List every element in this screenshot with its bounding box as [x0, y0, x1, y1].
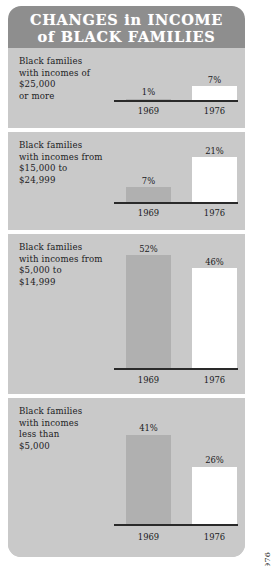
bar-value-1976: 7%	[192, 75, 237, 85]
panel-label: Black families with incomes from $5,000 …	[19, 242, 103, 288]
axis-tick-1976: 1976	[192, 106, 237, 116]
axis-tick-1969: 1969	[126, 106, 171, 116]
infographic-root: CHANGES in INCOME of BLACK FAMILIES Blac…	[0, 0, 275, 566]
panel-label: Black families with incomes from $15,000…	[19, 140, 103, 186]
source-credit-wrapper: Source: Statistical Abstract of the U.S.…	[259, 320, 273, 560]
bar-1969	[126, 255, 171, 368]
bar-value-1976: 21%	[192, 146, 237, 156]
axis-tick-1976: 1976	[192, 375, 237, 385]
panel-income-25000-or-more: Black families with incomes of $25,000 o…	[8, 48, 245, 128]
axis-line	[114, 100, 238, 102]
axis-line	[114, 524, 238, 526]
bar-1976	[192, 268, 237, 368]
source-credit: Source: Statistical Abstract of the U.S.…	[262, 552, 272, 566]
bar-1976	[192, 86, 237, 100]
title-banner: CHANGES in INCOME of BLACK FAMILIES	[8, 6, 245, 48]
bar-1969	[126, 99, 171, 100]
axis-tick-1976: 1976	[192, 532, 237, 542]
infographic-card: CHANGES in INCOME of BLACK FAMILIES Blac…	[8, 6, 245, 557]
axis-tick-1976: 1976	[192, 208, 237, 218]
panel-label: Black families with incomes of $25,000 o…	[19, 56, 90, 102]
page-title-line-1: CHANGES in INCOME	[30, 11, 223, 28]
bar-1969	[126, 187, 171, 202]
axis-tick-1969: 1969	[126, 375, 171, 385]
bar-1976	[192, 467, 237, 524]
bar-1969	[126, 435, 171, 524]
bar-1976	[192, 157, 237, 202]
chart-plot-area: 52% 46% 1969 1976	[114, 240, 238, 388]
panel-income-under-5000: Black families with incomes less than $5…	[8, 398, 245, 557]
chart-plot-area: 41% 26% 1969 1976	[114, 404, 238, 550]
axis-tick-1969: 1969	[126, 532, 171, 542]
bar-value-1976: 46%	[192, 257, 237, 267]
panel-label: Black families with incomes less than $5…	[19, 406, 82, 452]
bar-value-1969: 52%	[126, 244, 171, 254]
chart-plot-area: 1% 7% 1969 1976	[114, 56, 238, 118]
panel-income-5000-14999: Black families with incomes from $5,000 …	[8, 234, 245, 394]
bar-value-1969: 1%	[126, 87, 171, 97]
bar-value-1969: 41%	[126, 423, 171, 433]
bar-value-1969: 7%	[126, 176, 171, 186]
chart-plot-area: 7% 21% 1969 1976	[114, 138, 238, 220]
bar-value-1976: 26%	[192, 455, 237, 465]
axis-tick-1969: 1969	[126, 208, 171, 218]
panel-income-15000-24999: Black families with incomes from $15,000…	[8, 132, 245, 230]
page-title-line-2: of BLACK FAMILIES	[38, 28, 216, 45]
axis-line	[114, 202, 238, 204]
axis-line	[114, 368, 238, 370]
